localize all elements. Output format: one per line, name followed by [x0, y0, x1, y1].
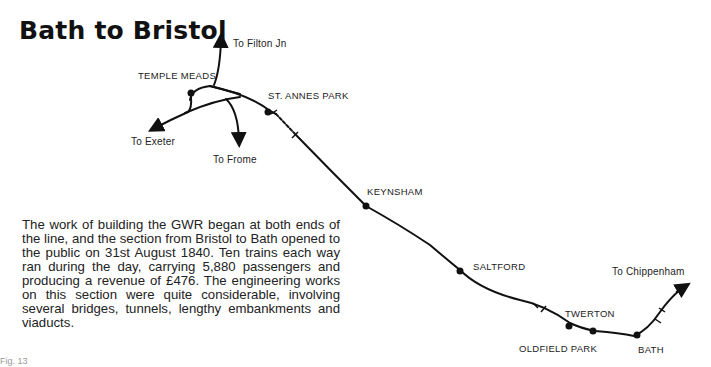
station-label-oldfield-park: OLDFIELD PARK — [519, 343, 597, 354]
direction-label-chippenham: To Chippenham — [612, 266, 685, 277]
body-paragraph: The work of building the GWR began at bo… — [22, 218, 340, 330]
station-dot-twerton — [566, 323, 573, 330]
figure-caption: Fig. 13 — [0, 356, 28, 366]
station-dot-st-annes-park — [265, 109, 272, 116]
station-dot-oldfield-park — [590, 328, 597, 335]
station-dot-temple-meads — [188, 90, 195, 97]
station-dot-keynsham — [363, 203, 370, 210]
station-label-bath: BATH — [638, 344, 664, 355]
station-label-saltford: SALTFORD — [473, 261, 525, 272]
station-dot-saltford — [457, 268, 464, 275]
direction-label-filton: To Filton Jn — [233, 38, 287, 49]
direction-label-frome: To Frome — [213, 154, 257, 165]
station-label-temple-meads: TEMPLE MEADS — [138, 70, 216, 81]
station-label-st-annes-park: ST. ANNES PARK — [268, 90, 349, 101]
direction-label-exeter: To Exeter — [131, 136, 175, 147]
station-dot-bath — [634, 332, 641, 339]
station-label-keynsham: KEYNSHAM — [367, 186, 423, 197]
station-label-twerton: TWERTON — [565, 308, 615, 319]
